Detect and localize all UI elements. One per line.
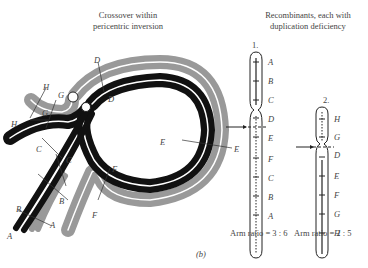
svg-text:B: B [268, 192, 273, 202]
svg-text:E: E [159, 137, 166, 147]
panel-label: (b) [196, 249, 206, 259]
svg-text:A: A [267, 57, 274, 67]
svg-text:D: D [333, 150, 341, 160]
svg-text:D: D [107, 94, 115, 104]
svg-text:A: A [6, 231, 13, 241]
svg-text:C: C [268, 95, 274, 105]
svg-text:B: B [268, 76, 273, 86]
svg-text:G: G [42, 108, 48, 118]
svg-text:C: C [268, 173, 274, 183]
svg-text:B: B [59, 196, 64, 206]
centromere-gray [68, 92, 78, 102]
svg-text:G: G [334, 209, 340, 219]
svg-text:2.: 2. [323, 95, 329, 105]
svg-text:A: A [267, 211, 274, 221]
svg-text:C: C [66, 155, 72, 165]
arm-ratio-1: Arm ratio = 3 : 6 [230, 228, 287, 238]
svg-text:E: E [333, 171, 340, 181]
svg-text:F: F [333, 190, 340, 200]
svg-text:B: B [16, 204, 21, 214]
arm-ratio-2: Arm ratio = 2 : 5 [294, 228, 351, 238]
svg-text:H: H [333, 114, 341, 124]
svg-text:H: H [10, 119, 18, 129]
svg-text:A: A [49, 220, 56, 230]
svg-text:H: H [42, 82, 50, 92]
diagram-canvas: D D H H G G C C E E F F B B A A 1. ABC D… [0, 0, 368, 268]
svg-text:1.: 1. [252, 40, 258, 50]
svg-text:D: D [267, 114, 275, 124]
svg-text:F: F [91, 210, 98, 220]
svg-text:G: G [58, 90, 64, 100]
centromere-black [82, 103, 91, 112]
svg-text:F: F [111, 164, 118, 174]
svg-text:G: G [334, 132, 340, 142]
svg-text:E: E [233, 144, 240, 154]
svg-text:E: E [267, 133, 274, 143]
svg-text:D: D [93, 55, 101, 65]
svg-text:F: F [267, 154, 274, 164]
svg-text:C: C [36, 144, 42, 154]
